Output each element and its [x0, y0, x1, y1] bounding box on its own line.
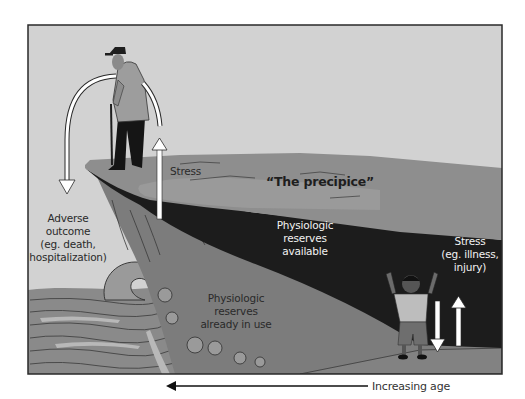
increasing-age-arrow	[166, 381, 368, 391]
adverse-outcome-line-2: outcome	[28, 225, 108, 238]
stress-label-top: Stress	[170, 165, 220, 178]
reserves-available-line-2: reserves	[270, 232, 340, 245]
adverse-outcome-label: Adverse outcome (eg. death, hospitalizat…	[28, 212, 108, 264]
stress-illness-label: Stress (eg. illness, injury)	[440, 235, 500, 274]
stress-illness-line-1: Stress	[440, 235, 500, 248]
adverse-outcome-line-1: Adverse	[28, 212, 108, 225]
adverse-outcome-line-4: hospitalization)	[28, 251, 108, 264]
adverse-outcome-line-3: (eg. death,	[28, 238, 108, 251]
reserves-available-line-3: available	[270, 245, 340, 258]
stress-illness-line-3: injury)	[440, 261, 500, 274]
increasing-age-label: Increasing age	[372, 380, 472, 393]
reserves-in-use-line-3: already in use	[196, 318, 276, 331]
reserves-available-line-1: Physiologic	[270, 219, 340, 232]
reserves-available-label: Physiologic reserves available	[270, 219, 340, 258]
reserves-in-use-line-1: Physiologic	[196, 292, 276, 305]
precipice-diagram	[0, 0, 525, 399]
cane	[111, 104, 112, 165]
reserves-in-use-line-2: reserves	[196, 305, 276, 318]
reserves-in-use-label: Physiologic reserves already in use	[196, 292, 276, 331]
stress-illness-line-2: (eg. illness,	[440, 248, 500, 261]
precipice-title: “The precipice”	[260, 175, 380, 188]
